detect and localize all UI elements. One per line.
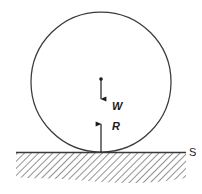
ground-hatching (10, 150, 194, 190)
reaction-label: R (112, 120, 120, 132)
surface-label: S (189, 146, 196, 158)
diagram-canvas: W R S (0, 0, 202, 194)
hatch-fill (10, 150, 194, 190)
weight-label: W (112, 100, 124, 112)
physics-diagram-figure: W R S (0, 0, 202, 194)
